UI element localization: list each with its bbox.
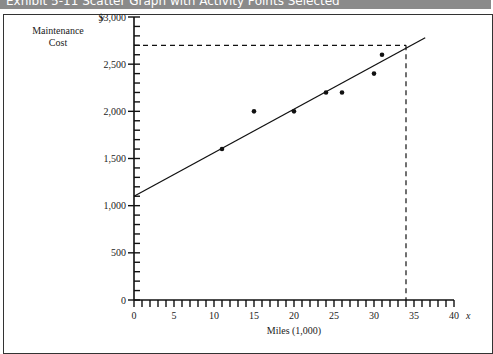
data-point (372, 71, 377, 76)
x-tick-label: 0 (132, 310, 137, 321)
y-tick-label: 1,500 (104, 153, 127, 164)
y-axis-title-line2: Cost (49, 37, 68, 48)
regression-line (134, 38, 425, 196)
x-tick-label: 5 (172, 310, 177, 321)
data-point (340, 90, 345, 95)
y-tick-label: 1,000 (104, 200, 127, 211)
y-tick-label: 2,500 (104, 59, 127, 70)
y-tick-label: $3,000 (99, 12, 127, 23)
axes: 05001,0001,5002,0002,500$3,0000510152025… (99, 12, 460, 322)
x-tick-label: 15 (249, 310, 259, 321)
data-point (324, 90, 329, 95)
x-tick-label: 40 (449, 310, 459, 321)
y-axis-title-line1: Maintenance (32, 25, 84, 36)
x-axis-title: Miles (1,000) (267, 325, 321, 337)
data-point (252, 109, 257, 114)
x-tick-label: 35 (409, 310, 419, 321)
y-tick-label: 0 (121, 295, 126, 306)
x-tick-label: 30 (369, 310, 379, 321)
data-point (292, 109, 297, 114)
y-tick-label: 500 (111, 247, 126, 258)
y-tick-label: 2,000 (104, 106, 127, 117)
x-tick-label: 20 (289, 310, 299, 321)
x-tick-label: 10 (209, 310, 219, 321)
plot-area (134, 38, 425, 300)
data-point (220, 147, 225, 152)
x-tick-label: 25 (329, 310, 339, 321)
x-axis-var: x (465, 310, 471, 321)
data-point (380, 52, 385, 57)
